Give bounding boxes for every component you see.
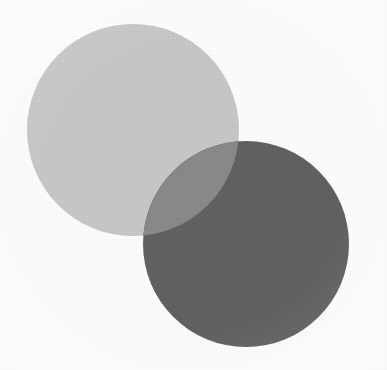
figure-canvas (0, 0, 387, 370)
venn-diagram (0, 0, 387, 370)
